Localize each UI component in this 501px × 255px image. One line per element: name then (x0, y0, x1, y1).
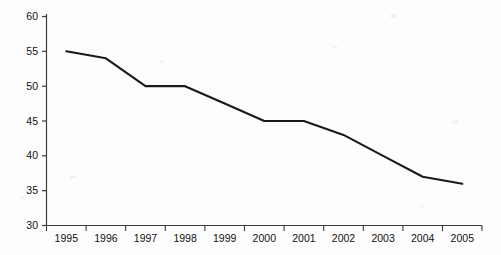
x-tick-label: 1999 (205, 233, 245, 244)
chart-figure: 60 55 50 45 40 35 30 1995 1996 1997 1998… (0, 0, 501, 255)
x-tick-label: 1998 (165, 233, 205, 244)
x-tick-label: 2005 (442, 233, 482, 244)
x-tick-label: 2000 (244, 233, 284, 244)
x-tick-label: 2001 (284, 233, 324, 244)
x-tick-label: 2003 (363, 233, 403, 244)
x-tick-label: 2002 (324, 233, 364, 244)
x-tick-label: 1995 (46, 233, 86, 244)
x-tick-label: 1996 (86, 233, 126, 244)
x-axis-labels: 1995 1996 1997 1998 1999 2000 2001 2002 … (0, 0, 501, 255)
x-tick-label: 1997 (126, 233, 166, 244)
x-tick-label: 2004 (403, 233, 443, 244)
